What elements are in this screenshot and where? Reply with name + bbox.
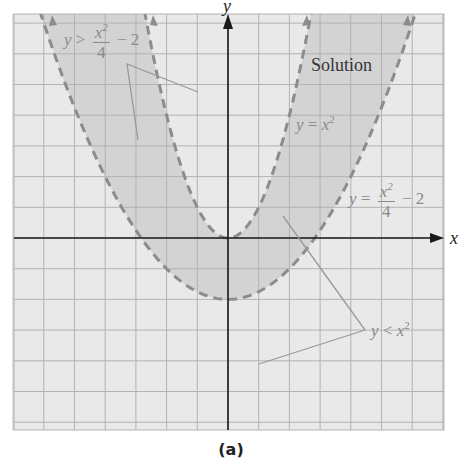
figure-caption: (a) bbox=[0, 440, 462, 459]
curve-inner-label: y = x2 bbox=[296, 114, 335, 133]
op: = bbox=[361, 189, 371, 208]
op: < bbox=[383, 321, 393, 340]
inequality-lower-label: y < x2 bbox=[371, 320, 410, 339]
exp: 2 bbox=[102, 21, 108, 33]
graph-figure: y x Solution y > x2 4 − 2 y = x2 y = x2 … bbox=[0, 0, 462, 472]
inequality-upper-label: y > x2 4 − 2 bbox=[64, 22, 139, 61]
curve-outer-label: y = x2 4 − 2 bbox=[349, 181, 424, 220]
op: > bbox=[76, 30, 86, 49]
x-axis-label: x bbox=[450, 229, 458, 247]
y-axis-label: y bbox=[223, 0, 231, 15]
den: 4 bbox=[378, 202, 395, 220]
exp: 2 bbox=[404, 319, 410, 331]
solution-label: Solution bbox=[311, 56, 372, 74]
exp: 2 bbox=[329, 113, 335, 125]
fraction: x2 4 bbox=[93, 22, 110, 61]
op: = bbox=[308, 115, 318, 134]
den: 4 bbox=[93, 43, 110, 61]
lhs: y bbox=[64, 30, 72, 49]
fraction: x2 4 bbox=[378, 181, 395, 220]
tail: − 2 bbox=[117, 30, 139, 49]
tail: − 2 bbox=[402, 189, 424, 208]
coordinate-plane bbox=[0, 0, 462, 472]
lhs: y bbox=[296, 115, 304, 134]
exp: 2 bbox=[387, 180, 393, 192]
lhs: y bbox=[349, 189, 357, 208]
lhs: y bbox=[371, 321, 379, 340]
